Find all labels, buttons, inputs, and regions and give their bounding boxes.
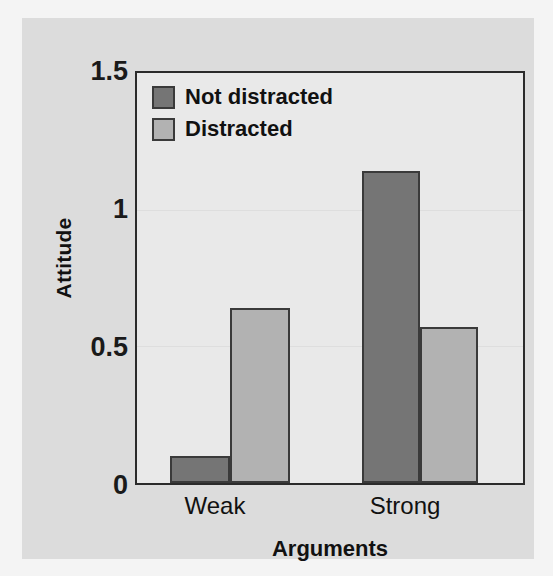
bar-strong-distracted (420, 327, 478, 483)
chart-legend: Not distracted Distracted (152, 82, 382, 146)
y-axis-title: Attitude (52, 188, 76, 328)
legend-item-not-distracted: Not distracted (152, 82, 382, 112)
y-tick-label-0.5: 0.5 (58, 334, 128, 361)
x-axis-title: Arguments (135, 536, 525, 562)
plot-area: Not distracted Distracted (135, 71, 525, 485)
chart-figure: 1.5 1 0.5 0 Attitude Not distracted (0, 0, 553, 576)
legend-swatch-icon-not-distracted (152, 86, 175, 109)
legend-label-not-distracted: Not distracted (185, 86, 333, 108)
x-tick-label-weak: Weak (135, 492, 295, 520)
bar-weak-distracted (230, 308, 290, 483)
gridline-1 (137, 210, 523, 211)
x-tick-label-strong: Strong (325, 492, 485, 520)
y-tick-label-0: 0 (58, 472, 128, 499)
bar-strong-not-distracted (362, 171, 420, 483)
y-tick-label-1.5: 1.5 (58, 58, 128, 85)
legend-item-distracted: Distracted (152, 114, 382, 144)
figure-canvas: 1.5 1 0.5 0 Attitude Not distracted (22, 18, 534, 559)
legend-label-distracted: Distracted (185, 118, 293, 140)
bar-weak-not-distracted (170, 456, 230, 483)
legend-swatch-icon-distracted (152, 118, 175, 141)
